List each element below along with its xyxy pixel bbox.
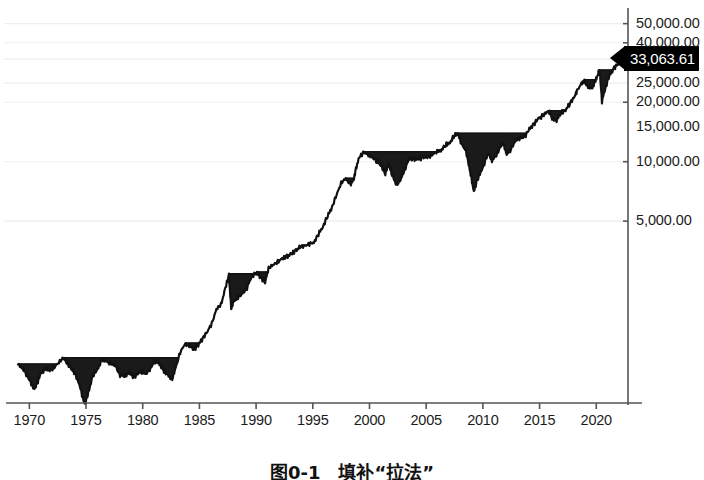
y-axis-tick-label: 5,000.00: [636, 213, 692, 228]
y-axis-tick-label: 40,000.00: [636, 35, 700, 50]
figure-container: 33,063.61 50,000.0040,000.0025,000.0020,…: [0, 0, 704, 480]
running-peak-line: [18, 49, 627, 365]
x-axis-tick-label: 2015: [510, 413, 570, 428]
y-axis-tick-label: 15,000.00: [636, 119, 700, 134]
x-axis-tick-label: 1975: [56, 413, 116, 428]
y-axis-tick-label: 20,000.00: [636, 94, 700, 109]
price-callout-label: 33,063.61: [630, 51, 695, 66]
y-axis-tick-label: 10,000.00: [636, 154, 700, 169]
x-axis-tick-label: 2005: [396, 413, 456, 428]
x-axis-tick-label: 2010: [453, 413, 513, 428]
x-axis-tick-label: 2020: [566, 413, 626, 428]
price-callout-arrow-icon: [610, 46, 625, 70]
y-axis-tick-label: 50,000.00: [636, 16, 700, 31]
x-axis-tick-label: 1980: [113, 413, 173, 428]
figure-caption: 图0-1 填补“拉法”: [0, 462, 704, 480]
x-axis-tick-label: 2000: [339, 413, 399, 428]
y-axis-tick-label: 25,000.00: [636, 75, 700, 90]
x-axis-tick-label: 1985: [169, 413, 229, 428]
index-chart-plot: [0, 0, 704, 480]
x-axis-tick-label: 1995: [283, 413, 343, 428]
x-axis-tick-label: 1990: [226, 413, 286, 428]
x-axis-tick-label: 1970: [0, 413, 59, 428]
